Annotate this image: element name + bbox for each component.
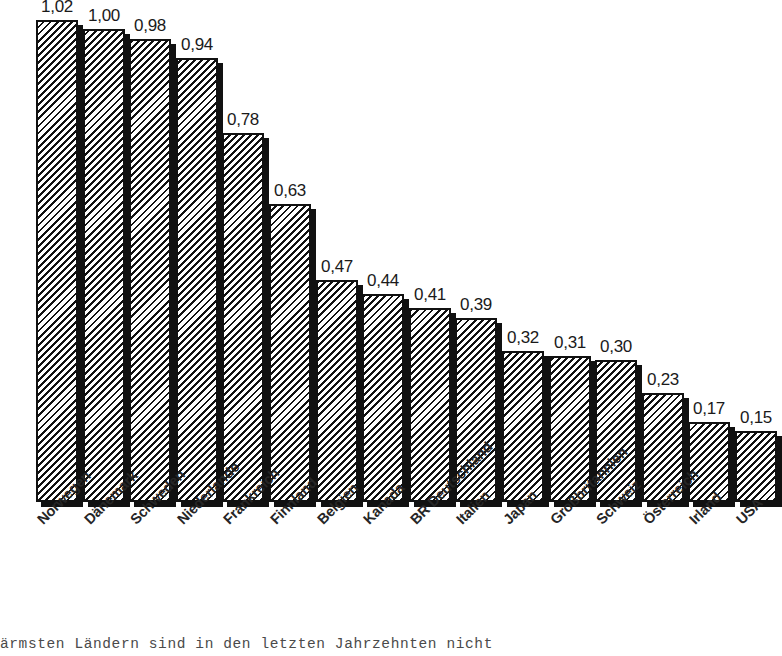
bar	[222, 133, 264, 502]
bar-value-label: 0,47	[321, 257, 353, 277]
bar-value-label: 0,44	[367, 271, 399, 291]
bar-group: 0,98	[129, 39, 171, 502]
bar-value-label: 0,31	[554, 333, 586, 353]
bar-value-label: 1,00	[88, 6, 120, 26]
bar-group: 0,41	[409, 308, 451, 502]
bar-group: 0,44	[362, 294, 404, 502]
bar	[176, 58, 218, 502]
bar-value-label: 0,63	[274, 181, 306, 201]
bar-value-label: 0,17	[693, 399, 725, 419]
bar	[362, 294, 404, 502]
plot-area: 1,021,000,980,940,780,630,470,440,410,39…	[0, 0, 771, 510]
bar	[36, 20, 78, 502]
bar-group: 0,94	[176, 58, 218, 502]
bar	[688, 422, 730, 502]
bar-value-label: 0,32	[507, 328, 539, 348]
bar-group: 1,02	[36, 20, 78, 502]
bar	[409, 308, 451, 502]
bar-value-label: 0,98	[134, 16, 166, 36]
bar	[269, 204, 311, 502]
bar-group: 0,17	[688, 422, 730, 502]
bar-value-label: 0,15	[740, 408, 772, 428]
bar-value-label: 0,30	[600, 337, 632, 357]
chart-caption: ärmsten Ländern sind in den letzten Jahr…	[0, 636, 771, 652]
bar-value-label: 1,02	[41, 0, 73, 17]
bar-group: 0,63	[269, 204, 311, 502]
bar	[316, 280, 358, 502]
bar-value-label: 0,41	[414, 285, 446, 305]
bar-group: 0,47	[316, 280, 358, 502]
bar	[129, 39, 171, 502]
bar-value-label: 0,78	[227, 110, 259, 130]
bar	[502, 351, 544, 502]
bar-group: 0,15	[735, 431, 777, 502]
bar-value-label: 0,39	[460, 295, 492, 315]
bar	[83, 29, 125, 502]
bar-group: 1,00	[83, 29, 125, 502]
bar-value-label: 0,94	[181, 35, 213, 55]
bar	[735, 431, 777, 502]
bar-group: 0,32	[502, 351, 544, 502]
bar-group: 0,78	[222, 133, 264, 502]
bar-value-label: 0,23	[647, 370, 679, 390]
